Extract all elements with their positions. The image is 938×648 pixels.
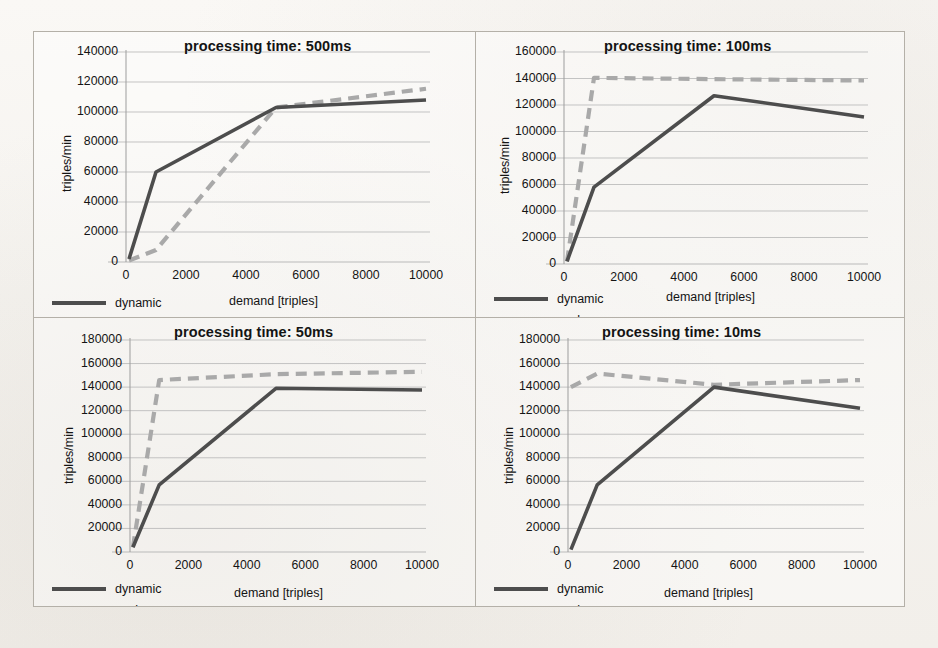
y-tick-label: 160000 (476, 44, 556, 58)
chart-panel-10ms: processing time: 10ms0200004000060000800… (475, 317, 904, 606)
y-tick-label: 80000 (476, 150, 556, 164)
chart-panel-100ms: processing time: 100ms020000400006000080… (475, 32, 904, 317)
y-axis-label: triples/min (60, 135, 74, 192)
plot-area-500ms: processing time: 500ms020000400006000080… (34, 32, 475, 317)
chart-legend: dynamicpush (52, 580, 162, 606)
legend-label: push (557, 603, 584, 607)
y-tick-label: 20000 (38, 224, 118, 238)
x-tick-label: 8000 (774, 270, 834, 284)
figure-container: processing time: 500ms020000400006000080… (33, 31, 905, 607)
legend-label: push (115, 603, 142, 607)
y-tick-label: 20000 (480, 520, 560, 534)
chart-legend: dynamicpush (52, 294, 162, 317)
y-axis-label: triples/min (502, 427, 516, 484)
legend-label: dynamic (557, 582, 604, 596)
y-tick-label: 100000 (476, 124, 556, 138)
y-tick-label: 180000 (480, 332, 560, 346)
legend-item-dynamic[interactable]: dynamic (52, 294, 162, 311)
legend-item-push[interactable]: push (494, 601, 604, 606)
x-axis-label: demand [triples] (234, 586, 323, 600)
x-tick-label: 6000 (275, 558, 335, 572)
x-tick-label: 2000 (596, 558, 656, 572)
y-tick-label: 120000 (480, 403, 560, 417)
x-tick-label: 10000 (834, 270, 894, 284)
y-tick-label: 40000 (38, 194, 118, 208)
y-tick-label: 160000 (42, 356, 122, 370)
y-tick-label: 0 (480, 544, 560, 558)
chart-panel-50ms: processing time: 50ms0200004000060000800… (34, 317, 475, 606)
x-tick-label: 0 (100, 558, 160, 572)
legend-item-dynamic[interactable]: dynamic (52, 580, 162, 597)
x-tick-label: 6000 (714, 270, 774, 284)
legend-item-dynamic[interactable]: dynamic (494, 580, 604, 597)
y-tick-label: 0 (476, 256, 556, 270)
series-line-push (133, 372, 422, 547)
y-tick-label: 80000 (42, 450, 122, 464)
y-tick-label: 140000 (476, 71, 556, 85)
y-tick-label: 40000 (480, 497, 560, 511)
chart-legend: dynamicpush (494, 290, 604, 317)
y-tick-label: 0 (42, 544, 122, 558)
legend-item-push[interactable]: push (52, 601, 162, 606)
y-tick-label: 20000 (476, 230, 556, 244)
x-axis-label: demand [triples] (666, 290, 755, 304)
y-tick-label: 100000 (42, 426, 122, 440)
legend-swatch-dynamic-icon (494, 587, 548, 591)
x-tick-label: 4000 (217, 558, 277, 572)
y-tick-label: 140000 (38, 44, 118, 58)
y-tick-label: 20000 (42, 520, 122, 534)
x-tick-label: 0 (96, 268, 156, 282)
x-tick-label: 6000 (713, 558, 773, 572)
legend-item-dynamic[interactable]: dynamic (494, 290, 604, 307)
y-axis-label: triples/min (498, 137, 512, 194)
plot-area-10ms: processing time: 10ms0200004000060000800… (476, 318, 904, 606)
x-axis-label: demand [triples] (229, 294, 318, 308)
x-tick-label: 8000 (334, 558, 394, 572)
x-tick-label: 8000 (336, 268, 396, 282)
chart-title: processing time: 10ms (602, 324, 761, 340)
y-tick-label: 180000 (42, 332, 122, 346)
series-line-push (571, 374, 860, 388)
y-tick-label: 40000 (476, 203, 556, 217)
chart-legend: dynamicpush (494, 580, 604, 606)
y-tick-label: 120000 (38, 74, 118, 88)
series-line-push (129, 89, 426, 261)
x-tick-label: 6000 (276, 268, 336, 282)
x-tick-label: 2000 (158, 558, 218, 572)
x-tick-label: 0 (534, 270, 594, 284)
x-tick-label: 4000 (655, 558, 715, 572)
legend-swatch-dynamic-icon (52, 301, 106, 305)
series-line-dynamic (133, 388, 422, 547)
series-line-dynamic (571, 387, 860, 550)
y-tick-label: 120000 (42, 403, 122, 417)
y-tick-label: 100000 (38, 104, 118, 118)
y-tick-label: 60000 (42, 473, 122, 487)
plot-area-100ms: processing time: 100ms020000400006000080… (476, 32, 904, 317)
x-tick-label: 2000 (156, 268, 216, 282)
legend-label: dynamic (557, 292, 604, 306)
chart-title: processing time: 500ms (184, 38, 351, 54)
y-tick-label: 60000 (38, 164, 118, 178)
x-tick-label: 4000 (654, 270, 714, 284)
x-tick-label: 8000 (772, 558, 832, 572)
y-tick-label: 80000 (38, 134, 118, 148)
y-tick-label: 60000 (480, 473, 560, 487)
y-tick-label: 100000 (480, 426, 560, 440)
plot-area-50ms: processing time: 50ms0200004000060000800… (34, 318, 475, 606)
legend-label: dynamic (115, 296, 162, 310)
legend-swatch-dynamic-icon (494, 297, 548, 301)
y-tick-label: 120000 (476, 97, 556, 111)
series-line-dynamic (567, 96, 864, 262)
y-tick-label: 60000 (476, 177, 556, 191)
x-tick-label: 10000 (392, 558, 452, 572)
x-tick-label: 10000 (396, 268, 456, 282)
x-tick-label: 4000 (216, 268, 276, 282)
chart-title: processing time: 100ms (604, 38, 771, 54)
y-tick-label: 160000 (480, 356, 560, 370)
y-tick-label: 140000 (42, 379, 122, 393)
chart-panel-500ms: processing time: 500ms020000400006000080… (34, 32, 475, 317)
legend-label: dynamic (115, 582, 162, 596)
x-tick-label: 2000 (594, 270, 654, 284)
legend-swatch-dynamic-icon (52, 587, 106, 591)
y-tick-label: 140000 (480, 379, 560, 393)
